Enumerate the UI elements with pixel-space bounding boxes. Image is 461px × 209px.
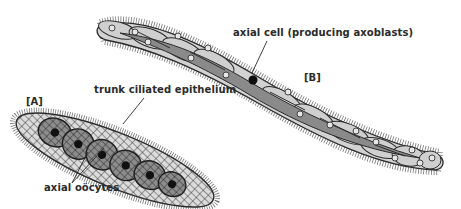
label-trunk-ciliated-epithelium: trunk ciliated epithelium — [94, 84, 236, 95]
panel-tag-b: [B] — [304, 72, 321, 83]
axial-cell-nucleus — [249, 76, 258, 85]
label-axial-cell: axial cell (producing axoblasts) — [233, 27, 413, 38]
label-axial-oocytes: axial oöcytes — [44, 182, 119, 193]
diagram-canvas: [A] [B] trunk ciliated epithelium axial … — [0, 0, 461, 209]
panel-tag-a: [A] — [26, 96, 43, 107]
